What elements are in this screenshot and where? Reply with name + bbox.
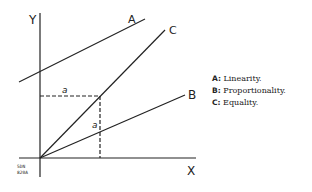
line-b-label: B (188, 88, 196, 102)
line-a (19, 19, 145, 82)
legend: A: Linearity. B: Proportionality. C: Equ… (212, 73, 286, 109)
corner-code: 5DN 820A (17, 164, 28, 176)
legend-key: B: (212, 86, 221, 95)
legend-item-a: A: Linearity. (212, 73, 286, 85)
line-a-label: A (128, 13, 136, 26)
corner-code-line: 820A (17, 170, 28, 176)
line-b (40, 95, 185, 158)
x-axis-label: X (187, 164, 195, 178)
line-c (40, 30, 165, 158)
segment-label-vertical: a (92, 120, 98, 130)
legend-key: A: (212, 74, 221, 83)
legend-key: C: (212, 98, 221, 107)
legend-item-c: C: Equality. (212, 97, 286, 109)
segment-label-horizontal: a (62, 85, 68, 95)
line-c-label: C (169, 24, 177, 37)
legend-item-b: B: Proportionality. (212, 85, 286, 97)
legend-text: Linearity. (224, 74, 262, 83)
legend-text: Equality. (223, 98, 258, 107)
y-axis-label: Y (28, 13, 37, 27)
legend-text: Proportionality. (223, 86, 286, 95)
